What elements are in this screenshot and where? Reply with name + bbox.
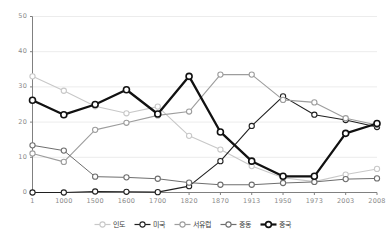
- x-axis-tick-label: 2003: [330, 197, 362, 205]
- data-point-marker: [218, 147, 223, 152]
- legend-marker-icon: [94, 220, 111, 229]
- data-point-marker: [374, 121, 380, 127]
- x-axis-tick-label: 1973: [298, 197, 330, 205]
- data-point-marker: [124, 111, 129, 116]
- legend-item-5[interactable]: 중국: [260, 219, 291, 229]
- data-point-marker: [124, 189, 129, 194]
- series-5: [30, 73, 381, 179]
- gridlines: [33, 17, 378, 158]
- series-4: [30, 143, 380, 188]
- data-point-marker: [343, 116, 348, 121]
- data-point-marker: [280, 97, 285, 102]
- data-point-marker: [218, 182, 223, 187]
- x-axis-tick-label: 1000: [48, 197, 80, 205]
- y-axis-tick-label: 20: [2, 118, 27, 126]
- data-point-marker: [280, 180, 285, 185]
- data-point-marker: [61, 159, 66, 164]
- series-line: [33, 75, 378, 162]
- data-point-marker: [61, 112, 67, 118]
- data-point-marker: [186, 180, 191, 185]
- data-point-marker: [312, 112, 317, 117]
- data-point-marker: [217, 129, 223, 135]
- x-axis-tick-label: 1500: [79, 197, 111, 205]
- data-point-marker: [311, 173, 317, 179]
- series-line: [33, 76, 378, 176]
- data-point-marker: [374, 166, 379, 171]
- data-point-marker: [249, 158, 255, 164]
- chart-axes: [30, 17, 377, 196]
- x-axis-tick-label: 1950: [267, 197, 299, 205]
- data-point-marker: [155, 104, 160, 109]
- data-series-group: [30, 72, 381, 195]
- y-axis-tick-label: 40: [2, 47, 27, 55]
- series-3: [30, 72, 380, 164]
- data-point-marker: [218, 72, 223, 77]
- data-point-marker: [30, 143, 35, 148]
- y-axis-tick-label: 10: [2, 153, 27, 161]
- data-point-marker: [249, 72, 254, 77]
- x-axis-tick-label: 1913: [236, 197, 268, 205]
- data-point-marker: [343, 177, 348, 182]
- legend-label: 중국: [279, 219, 291, 229]
- chart-legend: 인도미국서유럽중동중국: [0, 219, 385, 229]
- data-point-marker: [186, 109, 191, 114]
- legend-item-2[interactable]: 미국: [134, 219, 165, 229]
- data-point-marker: [30, 190, 35, 195]
- legend-label: 인도: [113, 219, 125, 229]
- data-point-marker: [92, 102, 98, 108]
- legend-item-3[interactable]: 서유럽: [174, 219, 211, 229]
- x-axis-tick-label: 1600: [110, 197, 142, 205]
- data-point-marker: [312, 179, 317, 184]
- data-point-marker: [124, 175, 129, 180]
- data-point-marker: [93, 174, 98, 179]
- data-point-marker: [93, 189, 98, 194]
- data-point-marker: [249, 182, 254, 187]
- series-line: [33, 96, 378, 192]
- data-point-marker: [93, 127, 98, 132]
- data-point-marker: [61, 190, 66, 195]
- legend-marker-icon: [220, 220, 237, 229]
- series-line: [33, 76, 378, 181]
- legend-marker-icon: [174, 220, 191, 229]
- x-axis-tick-label: 1870: [204, 197, 236, 205]
- legend-item-1[interactable]: 인도: [94, 219, 125, 229]
- x-axis-tick-label: 1: [17, 197, 49, 205]
- series-1: [30, 74, 380, 184]
- data-point-marker: [30, 97, 36, 103]
- data-point-marker: [218, 159, 223, 164]
- y-axis-tick-label: 50: [2, 12, 27, 20]
- data-point-marker: [249, 123, 254, 128]
- legend-label: 중동: [239, 219, 251, 229]
- data-point-marker: [123, 87, 129, 93]
- data-point-marker: [280, 173, 286, 179]
- legend-marker-icon: [260, 220, 277, 229]
- data-point-marker: [30, 74, 35, 79]
- data-point-marker: [374, 176, 379, 181]
- legend-label: 서유럽: [193, 219, 211, 229]
- data-point-marker: [343, 130, 349, 136]
- legend-label: 미국: [153, 219, 165, 229]
- legend-marker-icon: [134, 220, 151, 229]
- x-axis-tick-label: 1700: [142, 197, 174, 205]
- data-point-marker: [61, 88, 66, 93]
- data-point-marker: [312, 100, 317, 105]
- data-point-marker: [155, 111, 161, 117]
- x-axis-tick-label: 2008: [361, 197, 390, 205]
- data-point-marker: [124, 120, 129, 125]
- data-point-marker: [30, 151, 35, 156]
- y-axis-tick-label: 30: [2, 82, 27, 90]
- data-point-marker: [186, 133, 191, 138]
- y-axis-tick-label: 0: [2, 188, 27, 196]
- data-point-marker: [61, 148, 66, 153]
- data-point-marker: [155, 176, 160, 181]
- legend-item-4[interactable]: 중동: [220, 219, 251, 229]
- x-axis-tick-label: 1820: [173, 197, 205, 205]
- data-point-marker: [155, 190, 160, 195]
- data-point-marker: [186, 73, 192, 79]
